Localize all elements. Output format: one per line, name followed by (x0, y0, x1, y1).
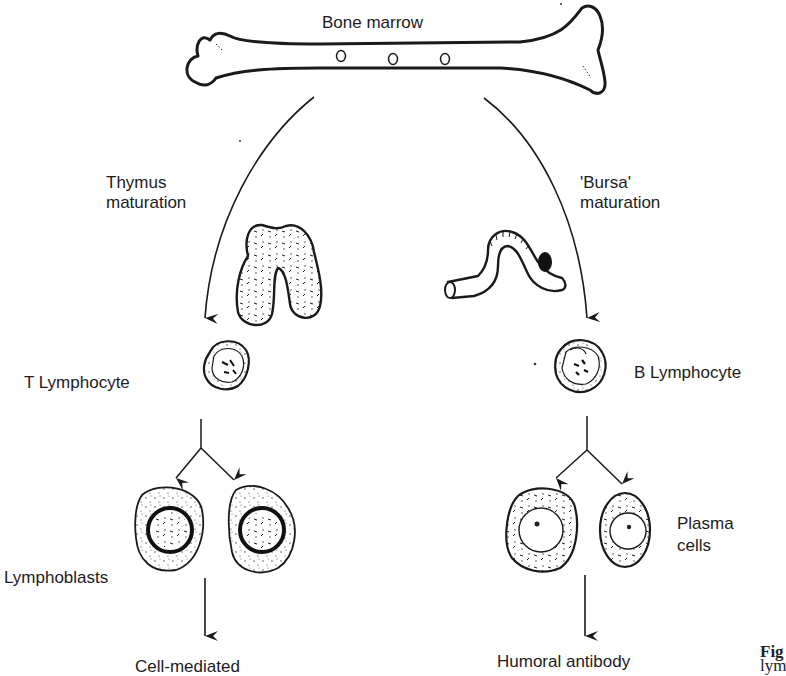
plasma-cell-icon-1 (506, 488, 577, 571)
bursa-maturation-label-line2: maturation (580, 192, 660, 213)
plasma-cell-icon-2 (600, 493, 650, 567)
lymphoblasts-label: Lymphoblasts (4, 567, 108, 588)
bone-marrow-label: Bone marrow (322, 12, 423, 33)
lymphoblast-cell-icon-2 (229, 486, 295, 572)
t-lymphocyte-cell-icon (204, 341, 249, 389)
figure-caption-fragment: Fig lym (760, 645, 786, 673)
bursa-maturation-label-line1: 'Bursa' (580, 172, 631, 193)
thymus-maturation-label-line1: Thymus (106, 172, 166, 193)
cell-mediated-label: Cell-mediated (135, 656, 240, 676)
b-lymphocyte-cell-icon (555, 340, 605, 392)
plasma-cells-label-line1: Plasma (677, 513, 734, 534)
bursa-spot (538, 252, 552, 272)
lymphoblast-cell-icon-1 (135, 487, 203, 570)
figure-caption-text: lym (760, 656, 786, 675)
b-split-arrows (556, 416, 622, 484)
thymus-organ-icon (237, 225, 322, 325)
plasma-cells-label-line2: cells (677, 535, 711, 556)
humoral-antibody-label: Humoral antibody (497, 651, 630, 672)
t-split-arrows (176, 419, 234, 480)
b-lymphocyte-label: B Lymphocyte (634, 362, 741, 383)
thymus-maturation-label-line2: maturation (106, 192, 186, 213)
t-lymphocyte-label: T Lymphocyte (24, 372, 130, 393)
bursa-organ-icon (445, 231, 565, 298)
